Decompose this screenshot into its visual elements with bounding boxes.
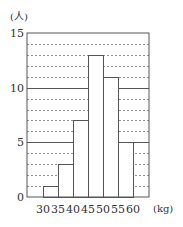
y-axis-unit: (人) [10,11,28,22]
x-tick-45: 45 [81,203,95,216]
x-tick-30: 30 [36,203,50,216]
y-tick-10: 10 [10,82,24,95]
x-tick-55: 55 [111,203,125,216]
bar-40-45 [74,121,89,198]
bar-35-40 [59,165,74,198]
bar-55-60 [119,143,134,198]
x-tick-labels: 30354045505560 [36,203,140,216]
y-tick-15: 15 [10,27,24,40]
bar-50-55 [104,78,119,198]
bars [44,56,134,198]
x-axis-unit: (kg) [153,203,173,214]
y-tick-5: 5 [17,136,24,149]
x-tick-35: 35 [51,203,65,216]
y-tick-0: 0 [17,191,24,204]
bar-45-50 [89,56,104,198]
bar-30-35 [44,187,59,198]
x-tick-40: 40 [66,203,80,216]
x-tick-50: 50 [96,203,110,216]
histogram-chart: (人) 15 10 5 0 30354045505560 (kg) [0,0,183,227]
x-tick-60: 60 [126,203,140,216]
